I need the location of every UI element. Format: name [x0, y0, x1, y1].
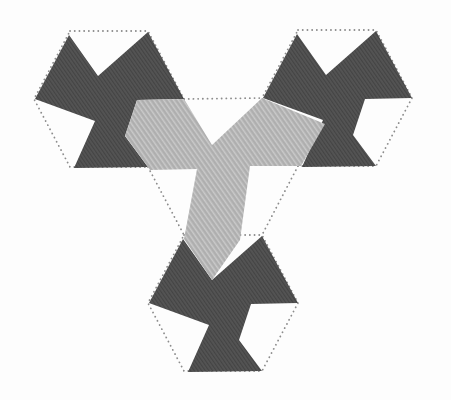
reptile-tiling-figure	[0, 0, 451, 400]
figure-svg	[0, 0, 451, 400]
geometric-figure-page	[0, 0, 451, 400]
